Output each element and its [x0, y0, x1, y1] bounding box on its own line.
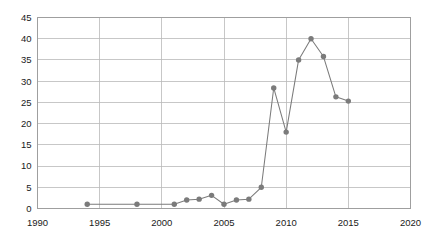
data-point-marker — [346, 98, 351, 103]
chart-canvas: 051015202530354045 199019952000200520102… — [0, 0, 432, 242]
y-tick-label: 0 — [26, 203, 31, 214]
x-tick-label: 2000 — [151, 217, 172, 228]
y-tick-label: 35 — [21, 54, 32, 65]
data-point-marker — [209, 193, 214, 198]
data-point-marker — [321, 54, 326, 59]
line-chart: 051015202530354045 199019952000200520102… — [0, 0, 432, 242]
data-point-marker — [196, 196, 201, 201]
x-tick-label: 1990 — [27, 217, 48, 228]
x-tick-label: 1995 — [89, 217, 110, 228]
data-point-marker — [333, 94, 338, 99]
y-tick-label: 40 — [21, 33, 32, 44]
y-tick-label: 10 — [21, 160, 32, 171]
y-tick-label: 25 — [21, 97, 32, 108]
data-point-marker — [172, 202, 177, 207]
data-point-marker — [234, 197, 239, 202]
y-tick-label: 45 — [21, 12, 32, 23]
y-tick-label: 20 — [21, 118, 32, 129]
data-point-marker — [259, 185, 264, 190]
data-point-marker — [85, 202, 90, 207]
plot-background — [0, 0, 432, 242]
y-tick-label: 5 — [26, 182, 31, 193]
data-point-marker — [134, 202, 139, 207]
data-point-marker — [184, 197, 189, 202]
data-point-marker — [221, 202, 226, 207]
x-tick-label: 2010 — [276, 217, 297, 228]
data-point-marker — [283, 129, 288, 134]
y-tick-label: 30 — [21, 76, 32, 87]
data-point-marker — [271, 85, 276, 90]
data-point-marker — [246, 196, 251, 201]
data-point-marker — [296, 57, 301, 62]
x-tick-label: 2015 — [338, 217, 359, 228]
x-tick-label: 2020 — [400, 217, 421, 228]
data-point-marker — [308, 36, 313, 41]
x-tick-label: 2005 — [213, 217, 234, 228]
y-tick-label: 15 — [21, 139, 32, 150]
